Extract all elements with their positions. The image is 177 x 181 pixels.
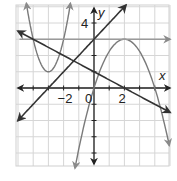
x-tick-label: −2 [58,91,73,106]
x-axis-label: x [158,68,166,83]
grid [16,5,170,166]
graph: x y −2024 [0,0,177,181]
y-tick-label: 4 [81,16,88,31]
x-tick-label: 2 [118,91,125,106]
grid-border [16,5,169,166]
x-tick-label: 0 [85,91,92,106]
